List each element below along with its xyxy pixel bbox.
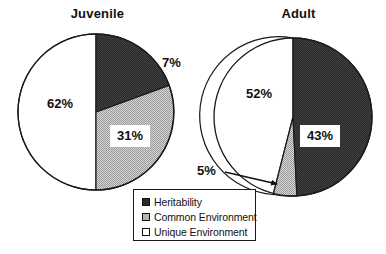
pie-chart-figure: Juvenile Adult bbox=[0, 0, 386, 254]
label-juvenile-unique-environment: 62% bbox=[47, 97, 73, 110]
legend-item-heritability: Heritability bbox=[142, 194, 255, 209]
legend-label-common-environment: Common Environment bbox=[154, 211, 257, 223]
wedge-adult-heritability bbox=[293, 38, 372, 196]
label-adult-common-environment: 5% bbox=[197, 164, 216, 177]
white-swatch-icon bbox=[142, 228, 150, 236]
label-juvenile-common-environment: 31% bbox=[110, 125, 150, 147]
pie-juvenile bbox=[18, 34, 174, 190]
label-adult-heritability: 43% bbox=[300, 125, 340, 147]
legend: Heritability Common Environment Unique E… bbox=[133, 189, 256, 241]
legend-label-unique-environment: Unique Environment bbox=[154, 226, 247, 238]
legend-item-common-environment: Common Environment bbox=[142, 209, 255, 224]
label-juvenile-heritability: 7% bbox=[162, 56, 181, 69]
wedge-juvenile-unique-environment bbox=[18, 34, 96, 190]
dark-swatch-icon bbox=[142, 198, 150, 206]
legend-label-heritability: Heritability bbox=[154, 196, 202, 208]
label-adult-unique-environment: 52% bbox=[246, 87, 272, 100]
mid-gray-swatch-icon bbox=[142, 213, 150, 221]
legend-item-unique-environment: Unique Environment bbox=[142, 224, 255, 239]
